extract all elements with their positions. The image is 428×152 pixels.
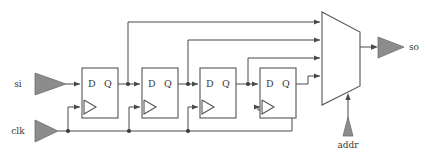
ff3-d-label: D <box>206 78 214 89</box>
flipflop-ff3: D Q <box>200 68 236 118</box>
arrow-ff2-ff3 <box>192 81 198 86</box>
wire-clk-to-ff2 <box>129 107 140 131</box>
arrow-ff1-ff2 <box>134 81 140 86</box>
wire-clk-to-ff3 <box>188 107 198 131</box>
junction-dot-clk3 <box>186 129 190 133</box>
arrow-mux-select <box>345 93 350 100</box>
arrow-clk-ff2 <box>134 104 140 109</box>
junction-dot-ff3q <box>246 82 250 86</box>
ff2-q-label: Q <box>164 78 172 89</box>
flipflop-ff2: D Q <box>142 68 178 118</box>
arrow-ff3-ff4 <box>252 81 258 86</box>
arrow-mux-in2 <box>314 55 320 60</box>
arrow-clk-ff1 <box>74 104 80 109</box>
addr-label: addr <box>337 140 359 150</box>
junction-dot-clk1 <box>66 129 70 133</box>
flipflop-ff4: D Q <box>260 68 296 118</box>
addr-input-port-icon[interactable] <box>343 117 353 136</box>
clk-label: clk <box>11 126 25 136</box>
ff4-d-label: D <box>266 78 274 89</box>
so-label: so <box>409 42 419 52</box>
circuit-diagram: D Q D Q D Q D Q si clk so addr <box>0 0 428 152</box>
mux-body <box>322 12 360 105</box>
ff3-q-label: Q <box>222 78 230 89</box>
junction-dot-clk2 <box>127 129 131 133</box>
arrow-mux-in0 <box>314 19 320 24</box>
arrow-si-ff1 <box>74 81 80 86</box>
arrow-mux-in3 <box>314 73 320 78</box>
wire-clk-to-ff1 <box>68 107 80 131</box>
circuit-canvas: D Q D Q D Q D Q si clk so addr <box>0 0 428 152</box>
ff2-d-label: D <box>148 78 156 89</box>
ff4-q-label: Q <box>282 78 290 89</box>
si-label: si <box>14 79 22 89</box>
so-output-port-icon[interactable] <box>378 37 404 58</box>
arrow-clk-ff3 <box>192 104 198 109</box>
clk-input-port-icon[interactable] <box>35 120 58 142</box>
arrow-mux-in1 <box>314 37 320 42</box>
ff1-q-label: Q <box>104 78 112 89</box>
ff1-d-label: D <box>88 78 96 89</box>
si-input-port-icon[interactable] <box>35 73 66 95</box>
flipflop-ff1: D Q <box>82 68 118 118</box>
junction-dot-ff2q <box>186 82 190 86</box>
junction-dot-ff1q <box>126 82 130 86</box>
arrow-mux-out <box>371 44 378 50</box>
